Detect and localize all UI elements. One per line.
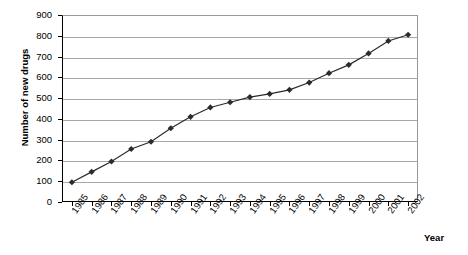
- y-axis-tick-label: 700: [0, 52, 52, 62]
- y-axis-tick-label: 600: [0, 72, 52, 82]
- y-axis-tick: [58, 160, 62, 161]
- data-point-marker: [306, 79, 312, 85]
- y-axis-tick-label: 800: [0, 31, 52, 41]
- y-axis-tick: [58, 57, 62, 58]
- y-axis-tick-label: 300: [0, 135, 52, 145]
- data-point-marker: [128, 146, 134, 152]
- y-axis-tick: [58, 36, 62, 37]
- data-point-marker: [108, 158, 114, 164]
- data-point-marker: [346, 62, 352, 68]
- series-line: [72, 35, 408, 183]
- data-point-marker: [405, 32, 411, 38]
- data-point-marker: [227, 99, 233, 105]
- y-axis-tick: [58, 15, 62, 16]
- y-axis-tick-label: 200: [0, 155, 52, 165]
- data-point-marker: [69, 179, 75, 185]
- y-axis-tick-label: 900: [0, 10, 52, 20]
- data-point-marker: [187, 114, 193, 120]
- data-point-marker: [267, 91, 273, 97]
- y-axis-tick-label: 100: [0, 176, 52, 186]
- data-point-marker: [326, 70, 332, 76]
- y-axis-tick: [58, 119, 62, 120]
- y-axis-tick: [58, 140, 62, 141]
- data-point-marker: [89, 169, 95, 175]
- data-point-marker: [385, 38, 391, 44]
- data-point-marker: [286, 87, 292, 93]
- y-axis-tick: [58, 98, 62, 99]
- y-axis-tick-label: 500: [0, 93, 52, 103]
- y-axis-tick-label: 0: [0, 197, 52, 207]
- y-axis-tick-label: 400: [0, 114, 52, 124]
- y-axis-tick: [58, 77, 62, 78]
- x-axis-title: Year: [424, 232, 444, 243]
- y-axis-tick: [58, 202, 62, 203]
- data-series: [62, 15, 418, 202]
- line-chart: Number of new drugs Year 010020030040050…: [0, 0, 468, 255]
- data-point-marker: [247, 94, 253, 100]
- data-point-marker: [207, 104, 213, 110]
- data-point-marker: [365, 50, 371, 56]
- y-axis-tick: [58, 181, 62, 182]
